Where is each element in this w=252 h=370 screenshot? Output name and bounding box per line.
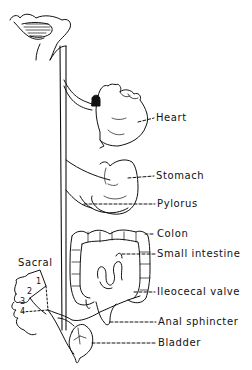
label-colon: Colon [157, 228, 188, 240]
spinal-cord [50, 46, 66, 330]
nerve-to-stomach [66, 160, 110, 180]
colon-icon [70, 230, 150, 305]
sacral-segment-1: 1 [36, 277, 41, 286]
stomach-icon [91, 160, 138, 214]
sacral-segment-3: 3 [20, 297, 25, 306]
label-sacral: Sacral [18, 257, 53, 269]
sacral-segment-2: 2 [27, 287, 32, 296]
anatomy-drawing [0, 0, 252, 370]
sacral-plexus-icon [12, 270, 140, 354]
label-pylorus: Pylorus [157, 198, 198, 210]
label-bladder: Bladder [158, 337, 201, 349]
label-ileocecal-valve: Ileocecal valve [157, 286, 240, 298]
sacral-segment-4: 4 [20, 307, 25, 316]
stomach-leader [128, 176, 154, 178]
label-heart: Heart [156, 112, 187, 124]
brainstem-icon [10, 14, 71, 60]
heart-leader [138, 118, 154, 122]
label-small-intestine: Small intestine [157, 248, 241, 260]
label-anal-sphincter: Anal sphincter [158, 316, 238, 328]
bladder-icon [69, 324, 93, 362]
heart-icon [92, 84, 148, 148]
small-intestine-icon [97, 253, 122, 289]
label-stomach: Stomach [156, 170, 204, 182]
nerve-to-heart [64, 80, 92, 104]
nerve-to-pylorus [66, 190, 92, 208]
